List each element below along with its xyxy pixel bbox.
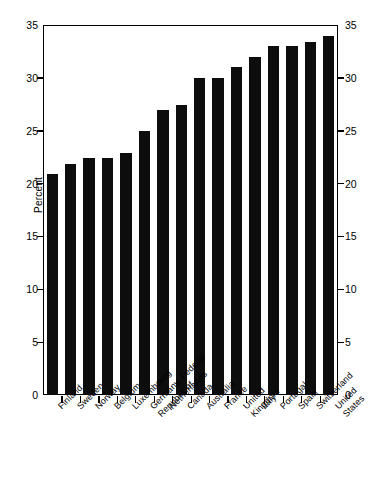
y-tick-label: 5 [12,337,38,347]
y-tick-label: 10 [12,284,38,294]
y-tick-label: 25 [12,126,38,136]
bar [268,46,279,395]
y-tick-label: 20 [12,179,38,189]
y-tick-label: 35 [345,20,371,30]
y-tick-mark [337,342,344,343]
y-tick-mark [337,77,344,78]
bar [249,57,260,395]
bar [65,164,76,396]
bar [83,158,94,395]
y-tick-label: 30 [12,73,38,83]
y-tick-mark [337,289,344,290]
bar [139,131,150,395]
bar [194,78,205,395]
y-tick-label: 25 [345,126,371,136]
bar-chart: Percent 05101520253035 05101520253035 Fi… [0,0,381,483]
y-tick-label: 30 [345,73,371,83]
y-tick-mark [337,236,344,237]
y-tick-label: 0 [12,390,38,400]
y-tick-label: 10 [345,284,371,294]
bar [176,105,187,395]
bar [286,46,297,395]
y-tick-label: 5 [345,337,371,347]
y-tick-label: 15 [345,231,371,241]
bar [305,42,316,395]
y-tick-label: 15 [12,231,38,241]
y-tick-mark [337,130,344,131]
y-tick-mark [337,183,344,184]
bar [102,158,113,395]
bar [157,110,168,395]
bar [212,78,223,395]
bar [231,67,242,395]
x-axis-labels: FinlandSwedenNorwayBelgiumLuxembourgGerm… [0,400,381,483]
bar [323,36,334,395]
bars-container [43,25,338,395]
y-tick-label: 20 [345,179,371,189]
bar [120,153,131,395]
y-tick-label: 35 [12,20,38,30]
bar [47,174,58,395]
